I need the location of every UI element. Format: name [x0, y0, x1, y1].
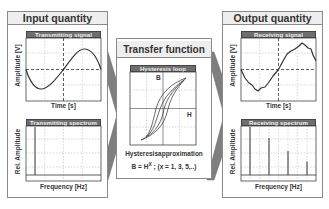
- transmitting-spectrum-ylabel: Rel. Amplitude: [14, 122, 21, 182]
- output-quantity-panel: Output quantity Receiving signal Amplitu…: [222, 11, 323, 198]
- transmitting-signal-plot: Transmitting signal: [26, 31, 101, 101]
- transfer-function-panel: Transfer function Hysteresis loop B H Hy…: [116, 38, 212, 179]
- hysteresis-formula: B = HX ; (x = 1, 3, 5,..): [117, 161, 211, 170]
- transmitting-signal-chart: [26, 31, 101, 101]
- output-quantity-title: Output quantity: [223, 12, 322, 25]
- receiving-signal-ylabel: Amplitude [V]: [229, 36, 236, 96]
- hysteresis-approximation-title: Hysteresisapproximation: [117, 150, 211, 157]
- transmitting-spectrum-xlabel: Frequency [Hz]: [26, 183, 101, 190]
- transmitting-spectrum-plot: Transmitting spectrum: [26, 119, 101, 181]
- formula-base: B = H: [132, 163, 149, 170]
- formula-rest: ; (x = 1, 3, 5,..): [152, 163, 197, 170]
- transfer-function-title: Transfer function: [117, 41, 211, 58]
- receiving-spectrum-chart: [241, 119, 316, 181]
- receiving-signal-plot: Receiving signal: [241, 31, 316, 101]
- transmitting-signal-ylabel: Amplitude [V]: [14, 36, 21, 96]
- receiving-spectrum-xlabel: Frequency [Hz]: [241, 183, 316, 190]
- transmitting-spectrum-chart: [26, 119, 101, 181]
- receiving-spectrum-plot: Receiving spectrum: [241, 119, 316, 181]
- b-axis-label: B: [156, 74, 161, 81]
- receiving-signal-chart: [241, 31, 316, 101]
- receiving-signal-xlabel: Time [s]: [241, 102, 316, 109]
- transmitting-signal-xlabel: Time [s]: [26, 102, 101, 109]
- receiving-spectrum-ylabel: Rel. Amplitude: [229, 122, 236, 182]
- h-axis-label: H: [187, 111, 192, 118]
- input-quantity-panel: Input quantity Transmitting signal Ampli…: [7, 11, 108, 198]
- input-quantity-title: Input quantity: [8, 12, 107, 25]
- hysteresis-loop-chart: [130, 65, 196, 145]
- hysteresis-loop-plot: Hysteresis loop B H: [130, 65, 196, 145]
